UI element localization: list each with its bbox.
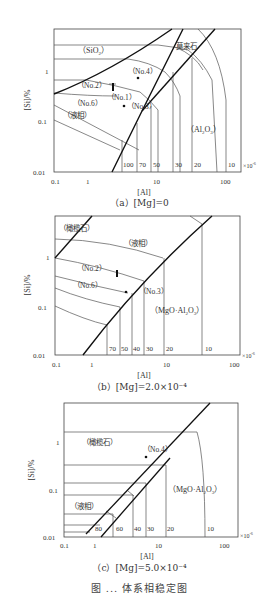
- svg-text:0.01: 0.01: [33, 169, 46, 177]
- y-axis-label: [Si]/%: [27, 459, 36, 480]
- axis-ticks: 0.01 0.1 1 0.1 1 10 100: [43, 439, 230, 550]
- figure-title: 图 ... 体系相稳定图: [0, 580, 279, 593]
- svg-text:0.1: 0.1: [49, 487, 58, 495]
- region-label-liquid: （液相）: [124, 238, 152, 248]
- svg-text:0.01: 0.01: [33, 352, 46, 360]
- region-label-spinel: （MgO·Al2O3）: [150, 306, 204, 316]
- data-point-no2: [116, 270, 118, 277]
- data-point-no2: [112, 83, 114, 91]
- chart-b: （橄榄石） （液相） （MgO·Al2O3） （No.2） （No.6） （No…: [23, 216, 255, 380]
- svg-text:70: 70: [109, 345, 117, 353]
- x-axis-label: [Al]: [137, 371, 151, 380]
- svg-text:1: 1: [93, 542, 97, 550]
- data-point-no3: [123, 105, 126, 108]
- svg-text:×10-6: ×10-6: [243, 161, 256, 169]
- svg-text:30: 30: [147, 525, 155, 533]
- svg-text:1: 1: [45, 68, 49, 76]
- svg-text:×10-6: ×10-6: [242, 351, 255, 359]
- svg-text:20: 20: [194, 161, 202, 169]
- region-label-liquid: （液相）: [70, 501, 98, 511]
- svg-text:100: 100: [229, 361, 240, 369]
- isotherm-labels: 70 50 40 30 20 10 ×10-6: [109, 345, 255, 359]
- region-label-sio2: （SiO2）: [78, 46, 109, 56]
- svg-text:0.1: 0.1: [51, 178, 60, 186]
- svg-text:1: 1: [56, 439, 60, 447]
- svg-text:10: 10: [163, 361, 171, 369]
- point-label-no1: （No.1）: [107, 93, 136, 102]
- point-label-no2: （No.2）: [77, 264, 106, 273]
- svg-text:50: 50: [121, 345, 129, 353]
- svg-text:0.01: 0.01: [43, 534, 56, 542]
- point-label-no6: （No.6）: [73, 281, 102, 290]
- svg-text:×10-6: ×10-6: [240, 531, 253, 539]
- region-label-spinel: （MgO·Al2O3）: [168, 485, 222, 495]
- data-point-no4: [145, 456, 148, 459]
- svg-text:40: 40: [133, 345, 141, 353]
- isotherm-labels: 100 70 50 30 20 10 ×10-6: [123, 161, 256, 169]
- svg-text:100: 100: [219, 542, 230, 550]
- region-label-olivine: （橄榄石）: [82, 437, 117, 447]
- svg-text:100: 100: [220, 178, 231, 186]
- point-label-no3: （No.3）: [127, 102, 156, 111]
- svg-text:80: 80: [95, 525, 103, 533]
- chart-a: （SiO2） 莫来石 （液相） （Al2O3） （No.4） （No.2） （N…: [23, 29, 256, 197]
- point-label-no2: （No.2）: [77, 81, 106, 90]
- svg-text:1: 1: [90, 361, 94, 369]
- svg-text:0.1: 0.1: [60, 542, 69, 550]
- svg-text:20: 20: [167, 525, 175, 533]
- svg-text:100: 100: [123, 161, 134, 169]
- svg-text:60: 60: [116, 525, 124, 533]
- svg-text:0.1: 0.1: [38, 304, 47, 312]
- region-label-al2o3: （Al2O3）: [186, 125, 221, 135]
- svg-text:0.1: 0.1: [52, 361, 61, 369]
- svg-text:30: 30: [175, 161, 183, 169]
- point-label-no6: （No.6）: [73, 99, 102, 108]
- data-point-no3: [125, 291, 128, 294]
- caption-a: （a）[Mg]=0: [0, 196, 279, 209]
- region-label-olivine: （橄榄石）: [59, 223, 94, 233]
- svg-text:10: 10: [205, 345, 213, 353]
- chart-c: （橄榄石） （液相） （MgO·Al2O3） （No.4） 80 60 40 3…: [27, 403, 253, 561]
- svg-text:30: 30: [146, 345, 154, 353]
- svg-text:20: 20: [166, 345, 174, 353]
- svg-text:10: 10: [153, 178, 161, 186]
- region-label-mullite: 莫来石: [176, 41, 198, 51]
- svg-text:70: 70: [139, 161, 147, 169]
- y-axis-label: [Si]/%: [23, 89, 32, 110]
- plot-frame: [64, 403, 238, 537]
- point-label-no4: （No.4）: [128, 67, 157, 76]
- x-axis-label: [Al]: [140, 552, 154, 561]
- svg-text:10: 10: [228, 161, 236, 169]
- y-axis-label: [Si]/%: [23, 274, 32, 295]
- point-label-no4: （No.4）: [143, 445, 172, 454]
- caption-b: （b）[Mg]=2.0×10⁻⁴: [0, 380, 279, 393]
- svg-text:40: 40: [134, 525, 142, 533]
- point-label-no3: （No.3）: [139, 287, 168, 296]
- region-label-liquid: （液相）: [63, 110, 91, 120]
- svg-text:10: 10: [155, 542, 163, 550]
- svg-text:0.1: 0.1: [38, 118, 47, 126]
- svg-text:50: 50: [153, 161, 161, 169]
- svg-text:1: 1: [86, 178, 90, 186]
- phase-stability-figure: （SiO2） 莫来石 （液相） （Al2O3） （No.4） （No.2） （N…: [0, 0, 279, 593]
- caption-c: （c）[Mg]=5.0×10⁻⁴: [0, 561, 279, 574]
- svg-text:1: 1: [46, 254, 50, 262]
- svg-text:10: 10: [207, 525, 215, 533]
- data-point-no4: [137, 77, 140, 80]
